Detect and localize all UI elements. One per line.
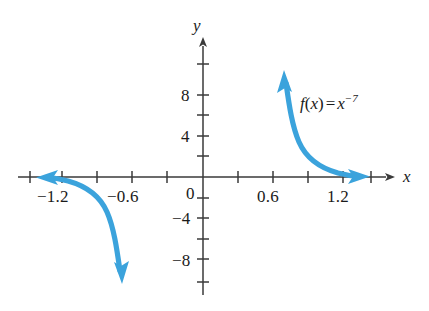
function-graph-figure: −1.2 −0.6 0.6 1.2 8 4 −4 −8 0 x y f(x)=x… bbox=[0, 0, 429, 311]
x-tick-label-0-6: 0.6 bbox=[257, 187, 279, 207]
y-tick-label-neg-4: −4 bbox=[172, 209, 191, 229]
plot-canvas bbox=[0, 0, 429, 311]
function-equals: = bbox=[324, 94, 338, 113]
x-tick-label-neg-0-6: −0.6 bbox=[107, 187, 139, 207]
x-axis-label: x bbox=[403, 167, 411, 187]
y-tick-label-neg-8: −8 bbox=[172, 251, 191, 271]
y-axis bbox=[197, 46, 209, 295]
function-exponent: −7 bbox=[345, 92, 358, 104]
y-tick-label-8: 8 bbox=[181, 86, 190, 106]
origin-label: 0 bbox=[186, 184, 195, 204]
function-close-paren: ) bbox=[318, 94, 324, 113]
y-axis-label: y bbox=[193, 16, 201, 36]
function-label: f(x)=x−7 bbox=[300, 92, 358, 114]
y-tick-label-4: 4 bbox=[181, 127, 190, 147]
x-tick-label-neg-1-2: −1.2 bbox=[37, 187, 69, 207]
function-variable: x bbox=[310, 94, 318, 113]
x-tick-label-1-2: 1.2 bbox=[327, 187, 349, 207]
curve-branch-positive bbox=[277, 70, 370, 184]
function-base: x bbox=[337, 94, 345, 113]
